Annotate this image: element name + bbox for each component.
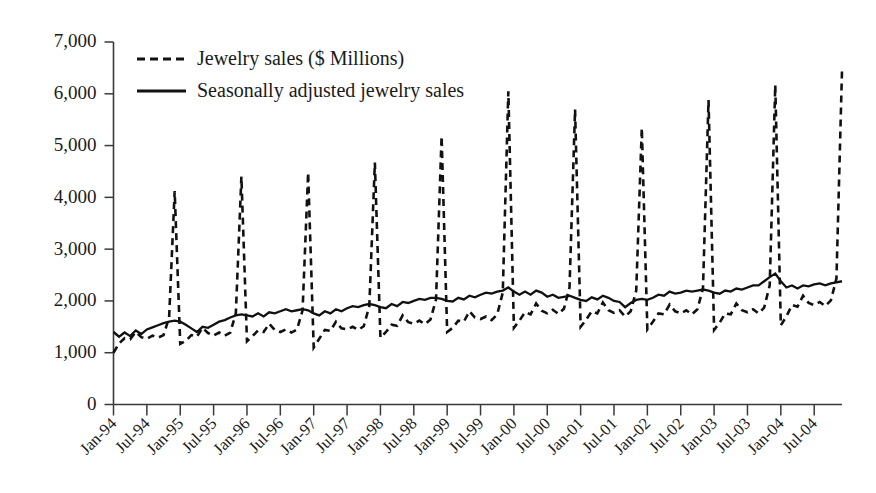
- y-tick-label: 3,000: [54, 238, 97, 259]
- y-axis-group: 01,0002,0003,0004,0005,0006,0007,000: [54, 30, 114, 414]
- y-tick-label: 7,000: [54, 30, 97, 51]
- legend-entry-jewelry-sales: Jewelry sales ($ Millions): [137, 47, 404, 70]
- x-tick-label: Jan-96: [209, 414, 254, 459]
- x-tick-label: Jan-02: [610, 414, 655, 459]
- chart-page: 01,0002,0003,0004,0005,0006,0007,000 Jan…: [0, 0, 876, 493]
- series-line-jewelry-sales: [114, 70, 843, 352]
- series-line-seasonally-adjusted: [114, 273, 843, 336]
- x-tick-label: Jan-97: [276, 414, 321, 459]
- x-tick-label: Jan-95: [143, 414, 188, 459]
- y-tick-label: 4,000: [54, 186, 97, 207]
- y-tick-label: 1,000: [54, 341, 97, 362]
- y-tick-label: 6,000: [54, 82, 97, 103]
- x-tick-label: Jan-99: [409, 414, 454, 459]
- y-tick-label: 5,000: [54, 134, 97, 155]
- x-tick-label: Jan-94: [76, 414, 121, 459]
- jewelry-sales-line-chart: 01,0002,0003,0004,0005,0006,0007,000 Jan…: [0, 0, 876, 493]
- x-tick-label: Jan-03: [676, 414, 721, 459]
- legend-entry-seasonally-adjusted: Seasonally adjusted jewelry sales: [137, 79, 464, 102]
- x-tick-label: Jan-01: [543, 414, 588, 459]
- y-tick-labels: 01,0002,0003,0004,0005,0006,0007,000: [54, 30, 97, 414]
- x-tick-marks: [114, 405, 815, 416]
- y-tick-marks: [105, 42, 114, 405]
- x-axis-group: Jan-94Jul-94Jan-95Jul-95Jan-96Jul-96Jan-…: [76, 405, 842, 459]
- legend-label-jewelry-sales: Jewelry sales ($ Millions): [197, 47, 404, 70]
- legend-label-seasonally-adjusted: Seasonally adjusted jewelry sales: [197, 79, 464, 102]
- legend: Jewelry sales ($ Millions) Seasonally ad…: [137, 47, 464, 102]
- y-tick-label: 2,000: [54, 289, 97, 310]
- x-tick-label: Jan-00: [476, 414, 521, 459]
- x-tick-label: Jan-98: [343, 414, 388, 459]
- y-tick-label: 0: [87, 393, 97, 414]
- x-tick-label: Jul-04: [778, 414, 821, 457]
- x-tick-label: Jan-04: [743, 414, 788, 459]
- x-tick-labels: Jan-94Jul-94Jan-95Jul-95Jan-96Jul-96Jan-…: [76, 414, 821, 459]
- plot-series-group: [114, 70, 843, 352]
